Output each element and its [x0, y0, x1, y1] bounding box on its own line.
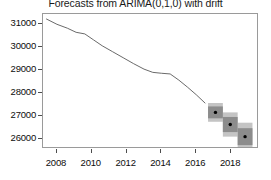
y-axis-tick-mark	[38, 138, 42, 139]
x-axis-tick-mark	[56, 149, 57, 153]
x-axis-tick-mark	[230, 149, 231, 153]
forecast-point	[243, 135, 246, 138]
y-axis-tick-label: 29000	[0, 64, 36, 74]
y-axis-tick-label: 30000	[0, 41, 36, 51]
forecast-chart: Forecasts from ARIMA(0,1,0) with drift 2…	[0, 0, 271, 180]
y-axis-tick-mark	[38, 92, 42, 93]
y-axis-tick-mark	[38, 69, 42, 70]
plot-area	[42, 13, 258, 148]
historical-line	[46, 19, 205, 103]
plot-svg	[43, 14, 258, 148]
x-axis-tick-mark	[195, 149, 196, 153]
y-axis-tick-mark	[38, 23, 42, 24]
x-axis-tick-mark	[91, 149, 92, 153]
forecast-point	[214, 111, 217, 114]
forecast-point	[229, 123, 232, 126]
y-axis-tick-label: 31000	[0, 18, 36, 28]
y-axis-tick-mark	[38, 46, 42, 47]
y-axis-tick-mark	[38, 115, 42, 116]
y-axis-tick-label: 27000	[0, 110, 36, 120]
historical-polyline	[46, 19, 205, 103]
x-axis-tick-mark	[126, 149, 127, 153]
y-axis-tick-label: 26000	[0, 133, 36, 143]
y-axis-tick-label: 28000	[0, 87, 36, 97]
x-axis-tick-label: 2018	[210, 158, 250, 168]
x-axis-tick-mark	[160, 149, 161, 153]
chart-title: Forecasts from ARIMA(0,1,0) with drift	[0, 0, 271, 9]
